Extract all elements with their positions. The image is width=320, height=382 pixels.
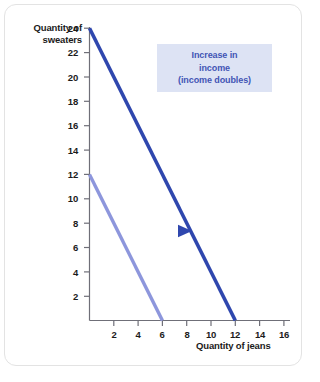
y-tick-label-6: 6 bbox=[62, 242, 78, 253]
y-tick-label-2: 2 bbox=[62, 291, 78, 302]
y-tick-label-4: 4 bbox=[62, 267, 78, 278]
x-tick-label-8: 8 bbox=[179, 329, 195, 340]
callout-line1: Increase in bbox=[192, 49, 238, 62]
x-axis-title: Quantity of jeans bbox=[196, 340, 271, 351]
y-tick-label-14: 14 bbox=[62, 145, 78, 156]
original-budget-line bbox=[90, 174, 163, 320]
y-tick-label-16: 16 bbox=[62, 120, 78, 131]
y-tick-label-24: 24 bbox=[62, 23, 78, 34]
x-tick-label-14: 14 bbox=[252, 329, 268, 340]
income-increase-callout: Increase in income (income doubles) bbox=[157, 44, 272, 92]
y-axis-title-line2: sweaters bbox=[43, 34, 82, 45]
x-tick-label-10: 10 bbox=[203, 329, 219, 340]
y-tick-label-22: 22 bbox=[62, 47, 78, 58]
y-tick-label-18: 18 bbox=[62, 96, 78, 107]
x-tick-label-12: 12 bbox=[227, 329, 243, 340]
callout-line2: income bbox=[199, 62, 230, 75]
x-tick-label-16: 16 bbox=[276, 329, 292, 340]
x-tick-label-6: 6 bbox=[154, 329, 170, 340]
x-tick-label-4: 4 bbox=[130, 329, 146, 340]
y-tick-label-20: 20 bbox=[62, 72, 78, 83]
x-tick-label-2: 2 bbox=[106, 329, 122, 340]
y-axis-ticks bbox=[84, 28, 90, 296]
y-tick-label-10: 10 bbox=[62, 193, 78, 204]
y-tick-label-8: 8 bbox=[62, 218, 78, 229]
callout-line3: (income doubles) bbox=[178, 74, 251, 87]
y-tick-label-12: 12 bbox=[62, 169, 78, 180]
x-axis-ticks bbox=[114, 321, 284, 327]
